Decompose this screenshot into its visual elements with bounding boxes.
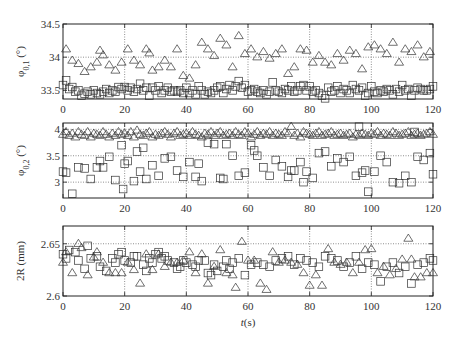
triangle-marker <box>277 45 286 52</box>
triangle-marker <box>160 56 169 63</box>
x-tick-label: 100 <box>363 300 380 312</box>
triangle-marker <box>173 45 182 52</box>
triangle-marker <box>253 53 262 60</box>
x-tick-label: 20 <box>119 300 131 312</box>
x-tick-label: 40 <box>181 300 193 312</box>
triangle-marker <box>419 53 428 60</box>
triangle-marker <box>123 45 132 52</box>
x-tick-label: 120 <box>425 300 442 312</box>
square-marker <box>68 190 76 198</box>
square-marker <box>361 167 369 175</box>
triangle-marker <box>268 248 277 255</box>
x-tick-label: 20 <box>119 103 131 115</box>
triangle-marker <box>197 38 206 45</box>
x-tick-label: 60 <box>243 202 255 214</box>
triangle-marker <box>191 61 200 68</box>
triangle-marker <box>74 239 83 246</box>
y-tick-label: 2.6 <box>46 290 60 302</box>
triangle-marker <box>250 256 259 263</box>
triangle-marker <box>318 281 327 288</box>
triangle-marker <box>96 46 105 53</box>
square-marker <box>149 161 157 169</box>
triangle-marker <box>336 260 345 267</box>
triangle-marker <box>136 279 145 286</box>
triangle-marker <box>379 262 388 269</box>
triangle-marker <box>197 250 206 257</box>
square-marker <box>119 185 127 193</box>
triangle-marker <box>271 49 280 56</box>
y-axis-label: φ0,1 (°) <box>14 46 31 77</box>
square-marker <box>371 168 379 176</box>
triangle-marker <box>216 246 225 253</box>
triangle-marker <box>86 63 95 70</box>
x-tick-label: 20 <box>119 202 131 214</box>
square-marker <box>266 172 274 180</box>
x-tick-label: 0 <box>60 300 66 312</box>
y-tick-label: 34 <box>49 51 61 63</box>
triangle-marker <box>117 269 126 276</box>
square-marker <box>87 175 95 183</box>
triangle-marker <box>111 269 120 276</box>
triangle-marker <box>203 279 212 286</box>
square-marker <box>105 153 113 161</box>
square-marker <box>112 176 120 184</box>
y-tick-label: 33.5 <box>41 84 61 96</box>
triangle-marker <box>136 61 145 68</box>
square-marker <box>204 269 212 277</box>
triangle-marker <box>333 49 342 56</box>
square-marker <box>223 140 231 148</box>
x-tick-label: 60 <box>243 300 255 312</box>
x-tick-label: 80 <box>304 202 316 214</box>
square-marker <box>260 164 268 172</box>
triangle-marker <box>203 45 212 52</box>
triangle-marker <box>395 58 404 65</box>
square-marker <box>297 158 305 166</box>
triangle-marker <box>216 34 225 41</box>
square-marker <box>124 157 132 165</box>
triangle-marker <box>256 279 265 286</box>
triangle-marker <box>398 255 407 262</box>
triangle-marker <box>299 269 308 276</box>
x-tick-label: 120 <box>425 103 442 115</box>
triangle-marker <box>247 45 256 52</box>
triangle-marker <box>259 47 268 54</box>
triangle-marker <box>392 264 401 271</box>
triangle-marker <box>355 258 364 265</box>
triangle-marker <box>105 61 114 68</box>
triangle-marker <box>68 269 77 276</box>
triangle-marker <box>404 234 413 241</box>
triangle-marker <box>237 237 246 244</box>
triangle-marker <box>89 253 98 260</box>
square-marker <box>253 152 261 160</box>
triangle-marker <box>342 258 351 265</box>
x-tick-label: 0 <box>60 202 66 214</box>
y-tick-label: 34.5 <box>41 18 61 30</box>
triangle-marker <box>234 31 243 38</box>
triangle-marker <box>191 269 200 276</box>
x-tick-label: 80 <box>304 103 316 115</box>
square-marker <box>408 280 416 288</box>
triangle-marker <box>231 283 240 290</box>
square-marker <box>327 163 335 171</box>
triangle-marker <box>290 63 299 70</box>
triangle-marker <box>287 258 296 265</box>
x-axis-label: t(s) <box>241 316 256 329</box>
square-marker <box>186 158 194 166</box>
triangle-marker <box>92 248 101 255</box>
square-marker <box>118 248 126 256</box>
triangle-marker <box>83 271 92 278</box>
triangle-marker <box>244 256 253 263</box>
square-marker <box>269 79 277 87</box>
triangle-marker <box>358 65 367 72</box>
triangle-marker <box>179 256 188 263</box>
triangle-marker <box>111 66 120 73</box>
triangle-marker <box>345 46 354 53</box>
x-tick-label: 40 <box>181 202 193 214</box>
square-marker <box>155 172 163 180</box>
triangle-marker <box>327 61 336 68</box>
triangle-marker <box>305 281 314 288</box>
triangle-marker <box>166 63 175 70</box>
square-marker <box>377 278 385 286</box>
y-tick-label: 2.65 <box>41 238 61 250</box>
triangle-marker <box>228 63 237 70</box>
